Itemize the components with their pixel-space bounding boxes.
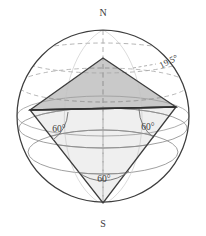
angle-right-label: 60° (141, 122, 155, 132)
angle-bottom-label: 60° (97, 174, 111, 184)
angle-left-label: 60° (52, 124, 66, 134)
south-pole-label: S (100, 218, 106, 229)
north-pole-label: N (99, 7, 106, 18)
figure-root: N S 19.5° 60° 60° 60° (0, 0, 206, 236)
sphere-diagram: N S 19.5° 60° 60° 60° (0, 0, 206, 236)
